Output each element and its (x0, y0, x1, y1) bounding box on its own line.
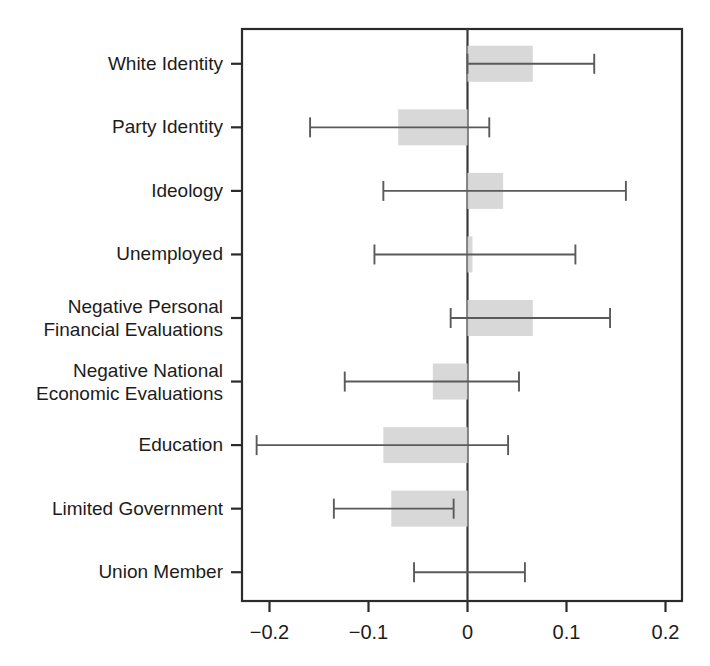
y-axis-category-label: Union Member (98, 561, 223, 582)
coefficient-plot-figure: −0.2−0.100.10.2White IdentityParty Ident… (0, 0, 710, 666)
x-axis-tick-label: 0.2 (652, 621, 680, 643)
y-axis-category-label: White Identity (108, 53, 224, 74)
y-axis-category-label: Limited Government (52, 498, 224, 519)
x-axis-tick-label: −0.2 (250, 621, 289, 643)
x-axis-tick-label: 0.1 (553, 621, 581, 643)
x-axis-tick-label: 0 (462, 621, 473, 643)
y-axis-category-label: Negative PersonalFinancial Evaluations (43, 296, 223, 340)
x-axis-tick-label: −0.1 (349, 621, 388, 643)
y-axis-category-label: Unemployed (116, 243, 223, 264)
coefficient-plot-canvas: −0.2−0.100.10.2White IdentityParty Ident… (0, 0, 710, 666)
y-axis-category-label: Education (138, 434, 223, 455)
y-axis-category-label: Ideology (151, 180, 223, 201)
y-axis-category-label: Party Identity (112, 116, 223, 137)
y-axis-category-label: Negative NationalEconomic Evaluations (36, 360, 223, 404)
